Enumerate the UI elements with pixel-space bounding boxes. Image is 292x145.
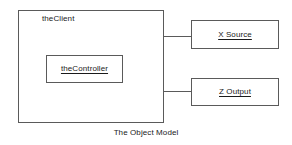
- z-output-box: Z Output: [191, 78, 279, 106]
- x-source-box: X Source: [191, 20, 279, 49]
- client-box-label: theClient: [42, 15, 74, 23]
- z-output-box-label: Z Output: [219, 88, 251, 96]
- controller-box: theController: [46, 55, 123, 83]
- object-model-diagram: theClient theController X Source Z Outpu…: [0, 0, 292, 145]
- controller-box-label: theController: [61, 65, 108, 73]
- x-source-box-label: X Source: [218, 31, 252, 39]
- diagram-caption: The Object Model: [0, 129, 292, 137]
